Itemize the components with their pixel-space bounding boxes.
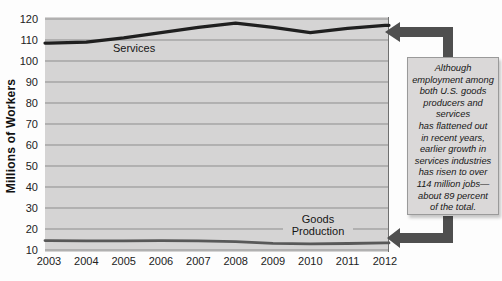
y-tick-label-90: 90 [0,76,38,88]
services-line-label: Services [113,42,155,54]
x-tick-label-2006: 2006 [141,255,181,267]
figure-employment-chart: Millions of Workers 12011010090807060504… [0,0,502,281]
goods-label-line2: Production [283,225,353,237]
y-tick-label-40: 40 [0,181,38,193]
x-tick-label-2004: 2004 [66,255,106,267]
y-tick-label-120: 120 [0,13,38,25]
x-tick-label-2009: 2009 [253,255,293,267]
x-tick-label-2012: 2012 [365,255,405,267]
y-tick-label-80: 80 [0,97,38,109]
x-tick-label-2005: 2005 [104,255,144,267]
y-tick-label-50: 50 [0,160,38,172]
callout-text-box: Although employment among both U.S. good… [407,57,499,215]
goods-label-line1: Goods [283,213,353,225]
y-tick-label-110: 110 [0,34,38,46]
goods-production-line-label: Goods Production [283,212,353,238]
arrow-to-goods-line [387,216,453,248]
x-tick-label-2008: 2008 [216,255,256,267]
y-tick-label-70: 70 [0,118,38,130]
y-tick-label-60: 60 [0,139,38,151]
x-tick-label-2007: 2007 [178,255,218,267]
y-tick-label-20: 20 [0,223,38,235]
x-tick-label-2011: 2011 [328,255,368,267]
x-tick-label-2003: 2003 [29,255,69,267]
x-tick-label-2010: 2010 [290,255,330,267]
y-tick-label-100: 100 [0,55,38,67]
y-tick-label-30: 30 [0,202,38,214]
arrow-to-services-line [385,22,453,58]
